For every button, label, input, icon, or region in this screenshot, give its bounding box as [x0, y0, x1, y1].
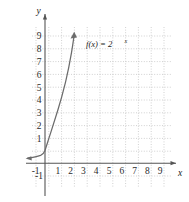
y-tick-label: 5 — [37, 83, 42, 93]
x-tick-label: 3 — [81, 166, 86, 176]
x-axis-label: x — [177, 168, 183, 178]
exponential-function-graph: 9 8 7 6 5 4 3 2 1 -1 -1 1 2 3 4 5 6 7 8 … — [0, 0, 189, 202]
y-tick-label: 3 — [37, 108, 42, 118]
x-tick-label-negative-one: -1 — [32, 166, 40, 176]
x-tick-label: 4 — [94, 166, 99, 176]
y-tick-label: 4 — [37, 95, 42, 105]
x-tick-label: 7 — [132, 166, 137, 176]
x-tick-label: 5 — [107, 166, 112, 176]
function-exponent: x — [124, 38, 128, 44]
y-axis-label: y — [35, 6, 41, 16]
graph-canvas: 9 8 7 6 5 4 3 2 1 -1 -1 1 2 3 4 5 6 7 8 … — [0, 0, 189, 202]
y-tick-label: 7 — [37, 57, 42, 67]
x-tick-label: 8 — [145, 166, 150, 176]
x-tick-label: 2 — [68, 166, 73, 176]
y-axis-tick-labels: 9 8 7 6 5 4 3 2 1 — [37, 31, 42, 143]
function-label: f(x) = 2 — [86, 39, 113, 49]
y-tick-label: 9 — [37, 31, 42, 41]
x-tick-label: 9 — [158, 166, 163, 176]
y-tick-label: 8 — [37, 44, 42, 54]
y-axis — [43, 14, 47, 196]
x-axis-tick-labels: -1 1 2 3 4 5 6 7 8 9 — [32, 166, 163, 176]
function-annotation: f(x) = 2 x — [86, 38, 128, 50]
y-tick-label: 1 — [37, 134, 42, 144]
y-tick-label: 2 — [37, 121, 42, 131]
x-tick-label: 1 — [55, 166, 60, 176]
x-tick-label: 6 — [119, 166, 124, 176]
x-axis — [26, 161, 176, 165]
function-curve — [26, 32, 77, 161]
y-tick-label: 6 — [37, 70, 42, 80]
